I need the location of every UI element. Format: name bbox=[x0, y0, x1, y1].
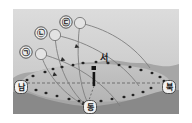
direction-label-north: 북 bbox=[166, 82, 174, 92]
direction-label-east: 동 bbox=[87, 103, 95, 112]
sun-path-diagram: ㉠ ㉡ ㉢ 서 남 북 동 bbox=[0, 0, 192, 123]
sun-disc-c bbox=[74, 17, 85, 28]
path-label-b-text: ㉡ bbox=[37, 28, 45, 38]
direction-label-west: 서 bbox=[100, 52, 108, 63]
path-label-c-text: ㉢ bbox=[62, 17, 70, 27]
direction-label-south: 남 bbox=[18, 82, 26, 92]
path-label-a-text: ㉠ bbox=[22, 47, 30, 57]
sun-disc-a bbox=[35, 48, 46, 59]
figure-root: ㉠ ㉡ ㉢ 서 남 북 동 bbox=[0, 0, 192, 123]
sun-disc-b bbox=[49, 29, 60, 40]
gnomon-pole bbox=[93, 72, 96, 86]
gnomon-cap bbox=[92, 66, 97, 70]
